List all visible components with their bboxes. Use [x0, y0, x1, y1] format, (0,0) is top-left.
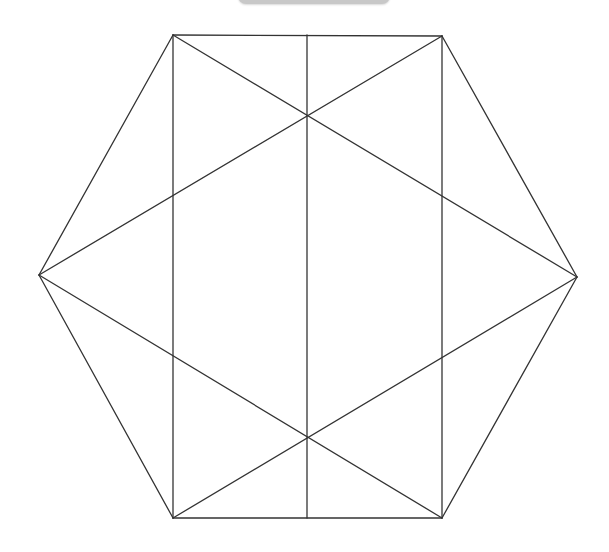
diag-topleft-right	[173, 35, 577, 277]
hex-edge-bottom-left	[39, 275, 173, 518]
diag-bottomright-left	[39, 275, 442, 518]
diag-topright-left	[39, 36, 442, 275]
hex-edge-top-right	[442, 36, 577, 277]
hex-edge-top-left	[39, 35, 173, 275]
hex-edge-bottom-right	[442, 277, 577, 518]
diag-bottomleft-right	[173, 277, 577, 518]
hexagon-diagram	[0, 0, 609, 552]
